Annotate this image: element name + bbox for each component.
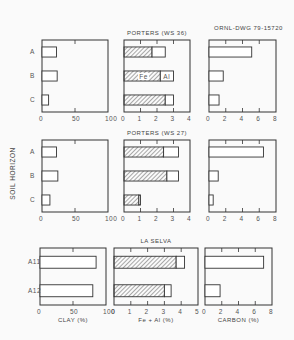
x-tick-label: 1 bbox=[138, 215, 142, 222]
x-tick-label: 100 bbox=[105, 115, 117, 122]
x-tick-label: 4 bbox=[236, 308, 240, 315]
panel-0-1 bbox=[124, 40, 190, 112]
panel-0-0 bbox=[42, 40, 108, 112]
category-label: A11 bbox=[28, 258, 41, 265]
x-tick-label: 0 bbox=[121, 215, 125, 222]
x-axis-label: CARBON (%) bbox=[205, 317, 272, 323]
x-tick-label: 100 bbox=[105, 215, 117, 222]
x-tick-label: 3 bbox=[171, 115, 175, 122]
x-tick-label: 2 bbox=[223, 115, 227, 122]
category-label: A12 bbox=[28, 287, 41, 294]
x-tick-label: 0 bbox=[206, 115, 210, 122]
category-label: A bbox=[30, 148, 35, 155]
x-tick-label: 4 bbox=[187, 115, 191, 122]
soil-chemistry-figure: ORNL-DWG 79-15720 SOIL HORIZON PORTERS (… bbox=[0, 0, 294, 340]
panel-1-2 bbox=[209, 140, 276, 212]
x-tick-label: 8 bbox=[273, 215, 277, 222]
panel-title: LA SELVA bbox=[114, 238, 198, 244]
category-label: B bbox=[30, 72, 35, 79]
x-tick-label: 2 bbox=[223, 215, 227, 222]
x-tick-label: 50 bbox=[72, 215, 80, 222]
x-tick-label: 3 bbox=[161, 308, 165, 315]
category-label: C bbox=[30, 196, 35, 203]
x-tick-label: 50 bbox=[72, 115, 80, 122]
category-label: B bbox=[30, 172, 35, 179]
x-tick-label: 2 bbox=[154, 215, 158, 222]
x-tick-label: 4 bbox=[187, 215, 191, 222]
category-label: C bbox=[30, 96, 35, 103]
panel-title: PORTERS (WS 27) bbox=[124, 130, 190, 136]
chart-panels bbox=[0, 0, 294, 340]
x-tick-label: 0 bbox=[121, 115, 125, 122]
x-axis-label: CLAY (%) bbox=[40, 317, 106, 323]
x-tick-label: 2 bbox=[145, 308, 149, 315]
x-tick-label: 2 bbox=[154, 115, 158, 122]
x-tick-label: 1 bbox=[128, 308, 132, 315]
legend-fe: Fe bbox=[138, 73, 149, 80]
x-tick-label: 0 bbox=[39, 215, 43, 222]
category-label: A bbox=[30, 48, 35, 55]
x-tick-label: 4 bbox=[240, 115, 244, 122]
x-tick-label: 8 bbox=[269, 308, 273, 315]
x-tick-label: 4 bbox=[178, 308, 182, 315]
panel-0-2 bbox=[209, 40, 276, 112]
x-tick-label: 0 bbox=[111, 308, 115, 315]
x-tick-label: 6 bbox=[256, 215, 260, 222]
legend-al: Al bbox=[163, 73, 170, 80]
x-tick-label: 6 bbox=[252, 308, 256, 315]
panel-title: PORTERS (WS 36) bbox=[124, 30, 190, 36]
panel-2-0 bbox=[40, 248, 106, 305]
x-tick-label: 6 bbox=[256, 115, 260, 122]
x-tick-label: 4 bbox=[240, 215, 244, 222]
panel-2-1 bbox=[114, 248, 198, 305]
panel-1-0 bbox=[42, 140, 108, 212]
x-tick-label: 8 bbox=[273, 115, 277, 122]
x-tick-label: 50 bbox=[70, 308, 78, 315]
panel-2-2 bbox=[205, 248, 272, 305]
x-tick-label: 0 bbox=[37, 308, 41, 315]
x-tick-label: 5 bbox=[195, 308, 199, 315]
x-tick-label: 0 bbox=[202, 308, 206, 315]
x-tick-label: 2 bbox=[219, 308, 223, 315]
x-tick-label: 1 bbox=[138, 115, 142, 122]
x-tick-label: 0 bbox=[206, 215, 210, 222]
x-tick-label: 0 bbox=[39, 115, 43, 122]
x-tick-label: 3 bbox=[171, 215, 175, 222]
panel-1-1 bbox=[124, 140, 190, 212]
x-axis-label: Fe + Al (%) bbox=[114, 317, 198, 323]
